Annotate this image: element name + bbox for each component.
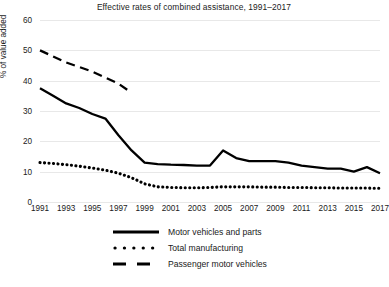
solid-line-swatch	[113, 226, 159, 238]
dashed-line-swatch	[113, 258, 159, 270]
y-axis-tick-label: 40	[23, 76, 32, 85]
x-axis-tick-label: 1991	[31, 204, 49, 213]
x-axis-tick-label: 2011	[293, 204, 311, 213]
series-line	[40, 88, 380, 173]
chart-legend: Motor vehicles and partsTotal manufactur…	[113, 224, 353, 272]
y-axis-label: % of value added	[0, 15, 8, 78]
legend-label: Total manufacturing	[168, 243, 243, 253]
x-axis-tick-label: 2017	[371, 204, 389, 213]
x-axis-tick-label: 2001	[162, 204, 180, 213]
x-axis-tick-label: 2013	[319, 204, 337, 213]
x-axis-tick-label: 2007	[240, 204, 258, 213]
y-axis-tick-label: 50	[23, 46, 32, 55]
x-axis-tick-label: 1999	[136, 204, 154, 213]
chart-title: Effective rates of combined assistance, …	[0, 2, 388, 12]
x-axis: 1991199319951997199920012003200520072009…	[40, 204, 380, 218]
legend-item[interactable]: Motor vehicles and parts	[113, 224, 353, 240]
x-axis-tick-label: 2015	[345, 204, 363, 213]
dotted-line-swatch	[113, 242, 159, 254]
series-line	[40, 50, 132, 92]
y-axis-tick-label: 60	[23, 16, 32, 25]
y-axis-tick-label: 30	[23, 107, 32, 116]
x-axis-tick-label: 2003	[188, 204, 206, 213]
y-axis: % of value added 0102030405060	[0, 20, 36, 202]
x-axis-tick-label: 1995	[83, 204, 101, 213]
legend-label: Motor vehicles and parts	[168, 227, 262, 237]
gridline	[40, 202, 380, 203]
series-layer	[40, 20, 380, 202]
y-axis-tick-label: 10	[23, 167, 32, 176]
x-axis-tick-label: 1997	[109, 204, 127, 213]
x-axis-tick-label: 1993	[57, 204, 75, 213]
x-axis-tick-label: 2009	[266, 204, 284, 213]
legend-item[interactable]: Total manufacturing	[113, 240, 353, 256]
legend-label: Passenger motor vehicles	[168, 259, 267, 269]
plot-area	[40, 20, 380, 202]
x-axis-tick-label: 2005	[214, 204, 232, 213]
y-axis-tick-label: 20	[23, 137, 32, 146]
legend-item[interactable]: Passenger motor vehicles	[113, 256, 353, 272]
